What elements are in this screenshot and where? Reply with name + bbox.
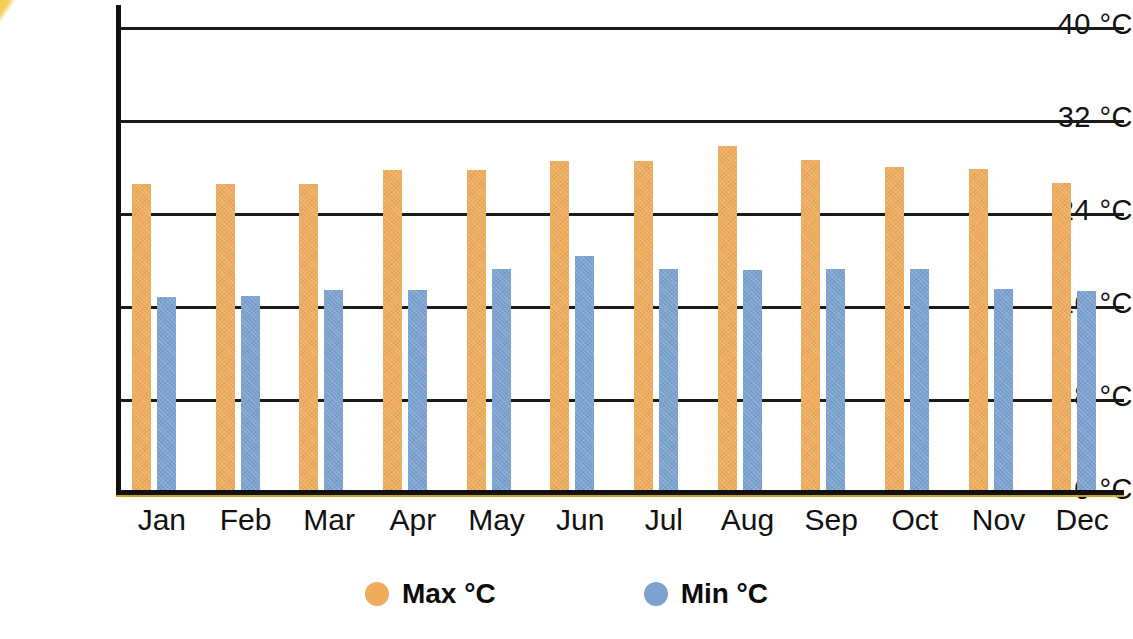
bar-max-apr[interactable]: [383, 170, 402, 492]
month-group-sep: [789, 27, 873, 492]
bar-min-jun[interactable]: [575, 256, 594, 492]
x-tick-label-feb: Feb: [204, 503, 288, 537]
bar-max-dec[interactable]: [1052, 183, 1071, 492]
bar-min-jul[interactable]: [659, 269, 678, 492]
bar-max-feb[interactable]: [216, 184, 235, 492]
bar-min-jan[interactable]: [157, 297, 176, 492]
x-tick-label-jan: Jan: [120, 503, 204, 537]
bar-max-jan[interactable]: [132, 184, 151, 492]
bar-min-feb[interactable]: [241, 296, 260, 492]
x-tick-label-dec: Dec: [1040, 503, 1124, 537]
month-group-apr: [371, 27, 455, 492]
bar-max-jul[interactable]: [634, 161, 653, 492]
bar-min-aug[interactable]: [743, 270, 762, 492]
month-group-nov: [957, 27, 1041, 492]
chart-legend: Max °CMin °C: [0, 578, 1133, 610]
x-tick-label-nov: Nov: [957, 503, 1041, 537]
bar-min-nov[interactable]: [994, 289, 1013, 492]
x-tick-label-apr: Apr: [371, 503, 455, 537]
bar-min-mar[interactable]: [324, 290, 343, 492]
month-group-feb: [204, 27, 288, 492]
month-group-may: [455, 27, 539, 492]
x-tick-label-jun: Jun: [538, 503, 622, 537]
x-tick-label-may: May: [455, 503, 539, 537]
x-tick-label-oct: Oct: [873, 503, 957, 537]
bar-max-may[interactable]: [467, 170, 486, 492]
bar-min-may[interactable]: [492, 269, 511, 492]
legend-item-min[interactable]: Min °C: [644, 578, 768, 610]
x-tick-label-aug: Aug: [706, 503, 790, 537]
blue-circle-swatch: [644, 582, 668, 606]
bar-max-nov[interactable]: [969, 169, 988, 492]
bar-max-aug[interactable]: [718, 146, 737, 492]
bar-min-oct[interactable]: [910, 269, 929, 492]
month-group-aug: [706, 27, 790, 492]
x-tick-label-sep: Sep: [789, 503, 873, 537]
temperature-bar-chart: 0 °C8 °C16 °C24 °C32 °C40 °C JanFebMarAp…: [0, 0, 1133, 639]
bar-max-mar[interactable]: [299, 184, 318, 492]
month-group-oct: [873, 27, 957, 492]
month-group-mar: [287, 27, 371, 492]
month-group-jun: [538, 27, 622, 492]
plot-area: [120, 27, 1124, 492]
x-tick-label-jul: Jul: [622, 503, 706, 537]
bar-max-oct[interactable]: [885, 167, 904, 493]
x-axis-accent-line: [116, 495, 1124, 497]
corner-wedge-decoration: [0, 0, 49, 33]
month-group-jul: [622, 27, 706, 492]
bar-min-apr[interactable]: [408, 290, 427, 492]
legend-label: Min °C: [681, 578, 768, 610]
orange-circle-swatch: [365, 582, 389, 606]
bar-max-jun[interactable]: [550, 161, 569, 492]
legend-item-max[interactable]: Max °C: [365, 578, 496, 610]
bar-min-sep[interactable]: [826, 269, 845, 492]
month-group-jan: [120, 27, 204, 492]
x-tick-label-mar: Mar: [287, 503, 371, 537]
legend-label: Max °C: [402, 578, 496, 610]
bar-min-dec[interactable]: [1077, 291, 1096, 492]
bar-max-sep[interactable]: [801, 160, 820, 492]
month-group-dec: [1040, 27, 1124, 492]
